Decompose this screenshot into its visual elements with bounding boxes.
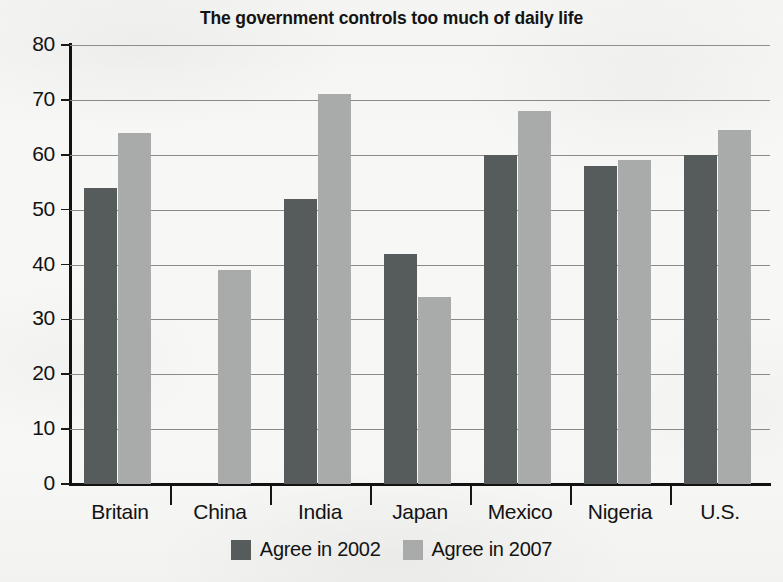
- y-tick-label-50: 50: [3, 197, 55, 221]
- bar-britain-agree-in-2007: [118, 133, 151, 484]
- y-tick-0: [61, 483, 70, 485]
- y-tick-70: [61, 99, 70, 101]
- y-tick-label-80: 80: [3, 32, 55, 56]
- legend-swatch-0: [231, 540, 251, 560]
- y-tick-10: [61, 428, 70, 430]
- bar-nigeria-agree-in-2007: [618, 160, 651, 484]
- bar-mexico-agree-in-2007: [518, 111, 551, 484]
- x-label-us: U.S.: [670, 500, 770, 524]
- bar-nigeria-agree-in-2002: [584, 166, 617, 484]
- legend-item-1[interactable]: Agree in 2007: [403, 538, 553, 561]
- y-tick-label-40: 40: [3, 252, 55, 276]
- chart-legend: Agree in 2002Agree in 2007: [0, 538, 783, 561]
- bar-britain-agree-in-2002: [84, 188, 117, 484]
- x-label-china: China: [170, 500, 270, 524]
- bar-mexico-agree-in-2002: [484, 155, 517, 484]
- legend-swatch-1: [403, 540, 423, 560]
- y-tick-label-70: 70: [3, 87, 55, 111]
- x-label-britain: Britain: [70, 500, 170, 524]
- x-label-mexico: Mexico: [470, 500, 570, 524]
- x-label-japan: Japan: [370, 500, 470, 524]
- chart-figure: The government controls too much of dail…: [0, 0, 783, 582]
- x-label-nigeria: Nigeria: [570, 500, 670, 524]
- chart-title: The government controls too much of dail…: [0, 8, 783, 29]
- y-tick-label-30: 30: [3, 306, 55, 330]
- bar-us-agree-in-2002: [684, 155, 717, 484]
- y-tick-40: [61, 264, 70, 266]
- y-tick-50: [61, 209, 70, 211]
- bar-india-agree-in-2007: [318, 94, 351, 484]
- legend-label-1: Agree in 2007: [432, 538, 553, 561]
- y-tick-label-0: 0: [3, 471, 55, 495]
- plot-area: [70, 45, 770, 484]
- bar-china-agree-in-2007: [218, 270, 251, 484]
- y-tick-label-60: 60: [3, 142, 55, 166]
- y-tick-80: [61, 44, 70, 46]
- bar-japan-agree-in-2007: [418, 297, 451, 484]
- legend-item-0[interactable]: Agree in 2002: [231, 538, 381, 561]
- y-tick-label-10: 10: [3, 416, 55, 440]
- y-tick-60: [61, 154, 70, 156]
- y-tick-30: [61, 319, 70, 321]
- y-tick-20: [61, 373, 70, 375]
- bar-us-agree-in-2007: [718, 130, 751, 484]
- y-tick-label-20: 20: [3, 361, 55, 385]
- bar-india-agree-in-2002: [284, 199, 317, 484]
- bar-japan-agree-in-2002: [384, 254, 417, 484]
- legend-label-0: Agree in 2002: [260, 538, 381, 561]
- x-label-india: India: [270, 500, 370, 524]
